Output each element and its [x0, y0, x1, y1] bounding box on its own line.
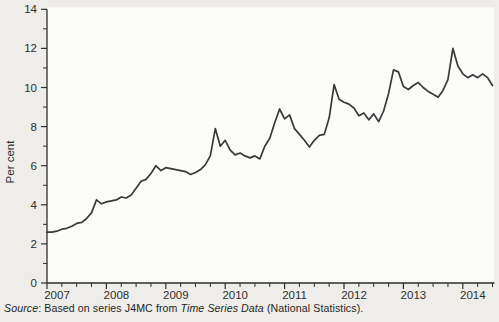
chart-canvas: 0246810121420072008200920102011201220132… [0, 0, 499, 302]
x-tick-label: 2012 [341, 289, 367, 301]
x-tick-label: 2014 [460, 289, 486, 301]
x-tick-label: 2009 [163, 289, 189, 301]
y-tick-label: 0 [31, 277, 37, 289]
x-tick-label: 2007 [44, 289, 70, 301]
source-note-text: : Based on series J4MC from [38, 302, 180, 314]
x-tick-label: 2011 [282, 289, 307, 301]
source-note-label: Source [4, 302, 38, 314]
y-tick-label: 12 [24, 42, 37, 54]
x-tick-label: 2008 [104, 289, 130, 301]
x-tick-label: 2013 [401, 289, 427, 301]
source-note-suffix: (National Statistics). [264, 302, 363, 314]
x-tick-label: 2010 [222, 289, 248, 301]
source-note-publication: Time Series Data [181, 302, 264, 314]
y-tick-label: 2 [31, 238, 37, 250]
y-axis-title: Per cent [4, 140, 16, 184]
source-note: Source: Based on series J4MC from Time S… [4, 302, 496, 314]
plot-area [47, 7, 494, 283]
y-tick-label: 8 [31, 121, 37, 133]
y-tick-label: 14 [24, 3, 37, 15]
y-tick-label: 4 [31, 199, 38, 211]
y-tick-label: 10 [24, 82, 37, 94]
line-chart-figure: 0246810121420072008200920102011201220132… [0, 0, 499, 322]
y-tick-label: 6 [31, 160, 37, 172]
